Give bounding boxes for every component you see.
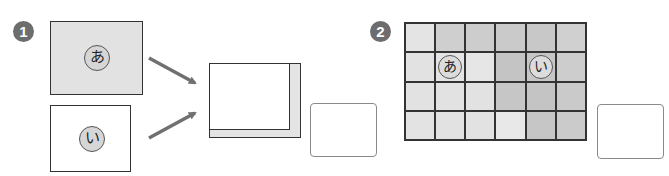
grid-cell: い bbox=[527, 53, 555, 80]
grid-cell bbox=[496, 24, 524, 51]
problem-1-badge: 1 bbox=[13, 21, 34, 42]
grid-cell: あ bbox=[436, 53, 464, 80]
grid-cell bbox=[496, 112, 524, 139]
grid-cell bbox=[466, 53, 494, 80]
grid-cell bbox=[466, 83, 494, 110]
grid-cell bbox=[527, 112, 555, 139]
grid-cell bbox=[466, 112, 494, 139]
grid-marker-a: あ bbox=[438, 55, 462, 79]
grid-cell bbox=[557, 83, 585, 110]
grid-cell bbox=[527, 24, 555, 51]
grid-cell bbox=[406, 53, 434, 80]
combined-box bbox=[209, 63, 301, 138]
box-a: あ bbox=[50, 21, 143, 95]
box-i: い bbox=[50, 105, 131, 172]
arrows-icon bbox=[140, 50, 210, 150]
grid-cell bbox=[496, 83, 524, 110]
grid-marker-i: い bbox=[529, 55, 553, 79]
answer-box-1[interactable] bbox=[310, 103, 377, 157]
grid-cell bbox=[466, 24, 494, 51]
arrow-down-right-icon bbox=[149, 58, 195, 83]
grid-cell bbox=[557, 53, 585, 80]
grid-cell bbox=[527, 83, 555, 110]
grid-cell bbox=[406, 24, 434, 51]
answer-box-2[interactable] bbox=[597, 104, 664, 159]
grid-cell bbox=[557, 24, 585, 51]
marker-a: あ bbox=[84, 45, 110, 71]
grid-cell bbox=[436, 83, 464, 110]
grid-cell bbox=[496, 53, 524, 80]
grid-cell bbox=[436, 24, 464, 51]
grid-cell bbox=[557, 112, 585, 139]
marker-i: い bbox=[79, 126, 105, 152]
arrow-up-right-icon bbox=[149, 113, 195, 138]
grid-map: あい bbox=[404, 22, 587, 141]
grid-cell bbox=[406, 83, 434, 110]
grid-cell bbox=[436, 112, 464, 139]
problem-2-badge: 2 bbox=[370, 21, 391, 42]
combined-inner bbox=[209, 63, 290, 130]
grid-cell bbox=[406, 112, 434, 139]
